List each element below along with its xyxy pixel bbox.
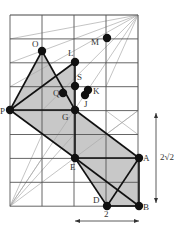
label-O: O — [32, 39, 39, 49]
label-K: K — [93, 86, 100, 96]
label-B: B — [143, 202, 149, 212]
point-S — [71, 82, 79, 90]
label-Q: Q — [53, 88, 60, 98]
label-G: G — [62, 112, 69, 122]
point-A — [135, 154, 143, 162]
point-P — [6, 106, 14, 114]
label-M: M — [91, 37, 99, 47]
geometry-diagram: OMLSQKJGPEADB 2√22 — [0, 0, 184, 237]
label-S: S — [77, 72, 82, 82]
point-O — [38, 47, 46, 55]
point-M — [103, 34, 111, 42]
label-A: A — [143, 153, 150, 163]
point-G — [71, 106, 79, 114]
label-E: E — [70, 162, 76, 172]
point-L — [71, 58, 79, 66]
label-L: L — [68, 48, 74, 58]
label-height: 2√2 — [160, 152, 174, 162]
label-D: D — [93, 195, 100, 205]
label-width: 2 — [104, 209, 109, 219]
point-J — [81, 91, 89, 99]
label-P: P — [0, 106, 5, 116]
label-J: J — [84, 99, 88, 109]
point-B — [135, 202, 143, 210]
point-Q — [59, 89, 67, 97]
point-E — [71, 154, 79, 162]
